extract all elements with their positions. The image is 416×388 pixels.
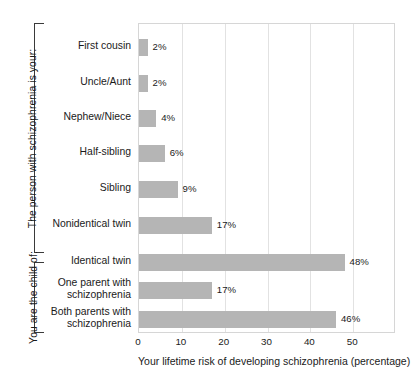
cat-line-1: Sibling [100, 182, 131, 193]
gridline-40 [310, 24, 311, 332]
value-label-0: 2% [153, 41, 167, 52]
category-label-7: One parent withschizophrenia [0, 277, 131, 300]
bar-2 [139, 110, 156, 127]
group-bracket-rail: The person with schizophrenia is your: Y… [0, 0, 46, 388]
chart-figure: The person with schizophrenia is your: Y… [0, 0, 416, 388]
gridline-50 [353, 24, 354, 332]
x-tick-40: 40 [304, 336, 315, 347]
cat-line-1: One parent with [58, 277, 131, 288]
bar-1 [139, 75, 148, 92]
cat-line-1: Nonidentical twin [52, 218, 131, 229]
category-label-6: Identical twin [0, 255, 131, 267]
x-axis-title: Your lifetime risk of developing schizop… [138, 355, 395, 367]
value-label-5: 17% [217, 219, 236, 230]
cat-line-1: Identical twin [71, 255, 131, 266]
gridline-30 [268, 24, 269, 332]
value-label-2: 4% [161, 112, 175, 123]
cat-line-1: Uncle/Aunt [80, 76, 131, 87]
category-label-0: First cousin [0, 40, 131, 52]
value-label-4: 9% [183, 183, 197, 194]
category-label-column: First cousinUncle/AuntNephew/NieceHalf-s… [46, 0, 135, 388]
category-label-2: Nephew/Niece [0, 111, 131, 123]
plot-area [138, 23, 395, 333]
value-label-7: 17% [217, 284, 236, 295]
category-label-8: Both parents withschizophrenia [0, 306, 131, 329]
value-label-6: 48% [350, 256, 369, 267]
bar-4 [139, 181, 178, 198]
x-tick-0: 0 [135, 336, 140, 347]
category-label-5: Nonidentical twin [0, 218, 131, 230]
x-tick-50: 50 [347, 336, 358, 347]
x-tick-10: 10 [175, 336, 186, 347]
bar-7 [139, 282, 212, 299]
x-tick-20: 20 [218, 336, 229, 347]
group-label-text-0: The person with schizophrenia is your: [28, 48, 39, 228]
bar-8 [139, 311, 336, 328]
value-label-3: 6% [170, 147, 184, 158]
cat-line-2: schizophrenia [67, 289, 131, 300]
value-label-8: 46% [341, 313, 360, 324]
cat-line-1: Half-sibling [80, 146, 131, 157]
category-label-1: Uncle/Aunt [0, 76, 131, 88]
value-label-1: 2% [153, 77, 167, 88]
category-label-3: Half-sibling [0, 146, 131, 158]
bar-0 [139, 39, 148, 56]
bar-6 [139, 254, 345, 271]
bar-5 [139, 217, 212, 234]
cat-line-1: Both parents with [51, 306, 131, 317]
category-label-4: Sibling [0, 182, 131, 194]
cat-line-1: Nephew/Niece [63, 111, 131, 122]
x-tick-30: 30 [261, 336, 272, 347]
cat-line-2: schizophrenia [67, 318, 131, 329]
bar-3 [139, 145, 165, 162]
cat-line-1: First cousin [78, 40, 131, 51]
